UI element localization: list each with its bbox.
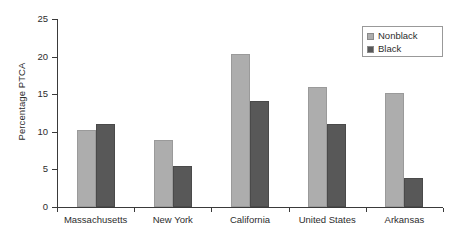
chart-legend: Nonblack Black: [362, 26, 443, 57]
y-axis-tick-label: 20: [8, 52, 48, 62]
x-axis-tick: [443, 208, 444, 212]
x-axis-tick: [134, 208, 135, 212]
bar: [308, 87, 327, 207]
y-axis-tick-label: 15: [8, 89, 48, 99]
bar: [327, 124, 346, 207]
bar: [154, 140, 173, 207]
x-axis-category-label: Massachusetts: [57, 215, 134, 225]
x-axis-tick: [366, 208, 367, 212]
bar: [77, 130, 96, 207]
bar: [96, 124, 115, 207]
x-axis-category-label: United States: [289, 215, 366, 225]
bar: [231, 54, 250, 207]
y-axis-title: Percentage PTCA: [16, 37, 27, 167]
bar: [173, 166, 192, 207]
x-axis-category-label: New York: [134, 215, 211, 225]
x-axis-tick: [289, 208, 290, 212]
bar-chart: 0510152025 Percentage PTCA Massachusetts…: [0, 0, 453, 242]
legend-swatch-black-icon: [367, 46, 374, 53]
x-axis-line: [57, 207, 443, 208]
x-axis-tick: [57, 208, 58, 212]
bar: [385, 93, 404, 207]
legend-item-black: Black: [367, 43, 438, 55]
x-axis-tick: [211, 208, 212, 212]
legend-label-nonblack: Nonblack: [378, 31, 418, 41]
bar: [250, 101, 269, 207]
x-axis-category-label: California: [211, 215, 288, 225]
legend-label-black: Black: [378, 44, 401, 54]
y-axis-tick-label: 25: [8, 14, 48, 24]
y-axis-tick-label: 5: [8, 164, 48, 174]
bar: [404, 178, 423, 207]
legend-item-nonblack: Nonblack: [367, 30, 438, 42]
y-axis-tick-label: 0: [8, 202, 48, 212]
x-axis-category-label: Arkansas: [366, 215, 443, 225]
y-axis-tick-label: 10: [8, 127, 48, 137]
legend-swatch-nonblack-icon: [367, 33, 374, 40]
